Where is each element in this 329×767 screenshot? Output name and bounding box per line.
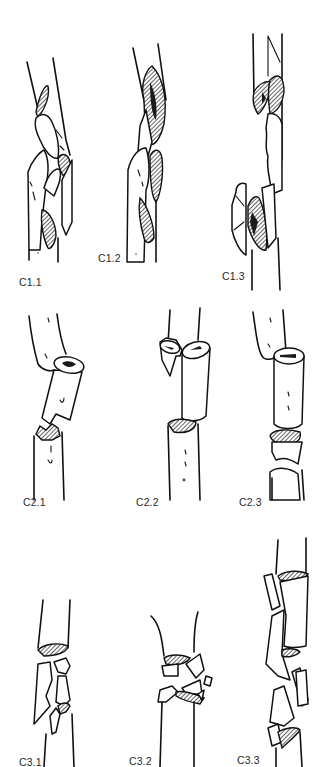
illustration-c1-2 [127,44,166,262]
panel-label-c3-2: C3.2 [129,756,152,767]
panel-label-c3-1: C3.1 [19,757,42,767]
illustration-c2-2 [159,308,212,500]
panel-label-c2-2: C2.2 [136,497,159,508]
fracture-illustrations [0,0,329,767]
panel-label-c1-1: C1.1 [19,277,42,288]
illustration-c2-1 [29,314,85,500]
panel-label-c1-2: C1.2 [98,253,121,264]
panel-label-c1-3: C1.3 [222,271,245,282]
panel-label-c2-1: C2.1 [23,497,46,508]
fracture-diagram: C1.1 C1.2 C1.3 C2.1 C2.2 C2.3 C3.1 C3.2 … [0,0,329,767]
panel-label-c2-3: C2.3 [239,497,262,508]
illustration-c1-1 [27,58,72,262]
illustration-c3-1 [34,600,74,767]
illustration-c3-2 [151,612,212,767]
illustration-c3-3 [264,538,308,767]
illustration-c2-3 [253,310,304,500]
panel-label-c3-3: C3.3 [237,755,260,766]
illustration-c1-3 [232,34,284,290]
